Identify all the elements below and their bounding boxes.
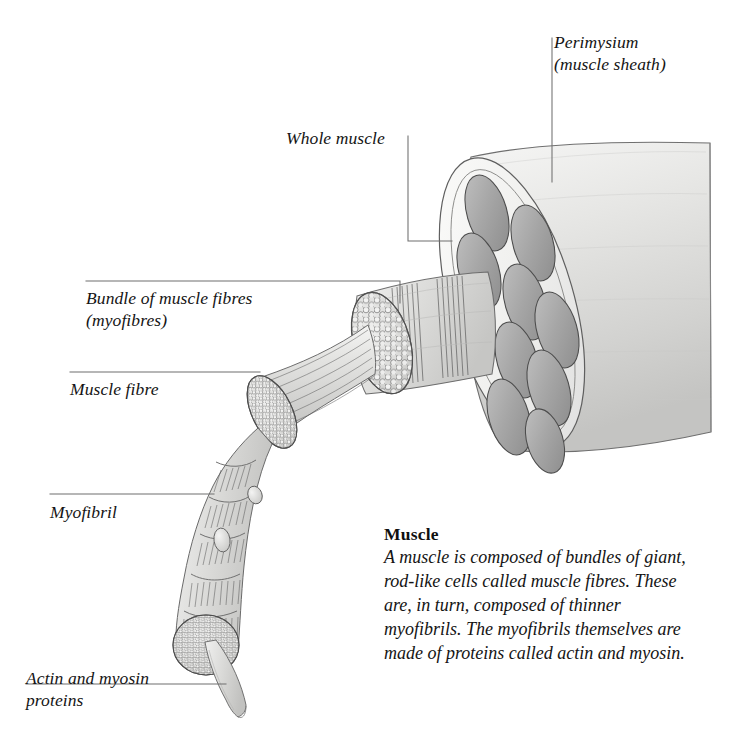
label-myofibril: Myofibril <box>50 502 117 524</box>
caption-block: Muscle A muscle is composed of bundles o… <box>384 524 702 666</box>
label-muscle-fibre: Muscle fibre <box>70 379 159 401</box>
caption-title: Muscle <box>384 524 702 545</box>
label-actin-and-myosin-proteins: Actin and myosin proteins <box>26 668 149 712</box>
label-perimysium: Perimysium (muscle sheath) <box>554 32 666 76</box>
single-myofibril <box>172 428 272 678</box>
label-whole-muscle: Whole muscle <box>286 128 385 150</box>
label-bundle-of-muscle-fibres: Bundle of muscle fibres (myofibres) <box>86 288 252 332</box>
caption-body: A muscle is composed of bundles of giant… <box>384 546 702 666</box>
illustration-page: Perimysium (muscle sheath) Whole muscle … <box>0 0 733 751</box>
